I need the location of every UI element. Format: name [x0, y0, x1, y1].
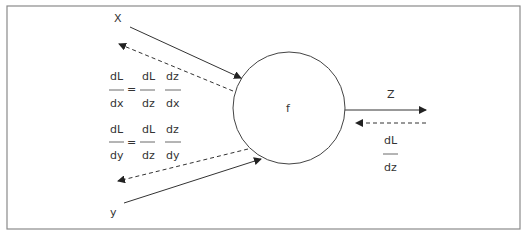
gradient-y-formula: dL dy = dL dz dz dy: [109, 123, 181, 162]
svg-text:dz: dz: [166, 70, 179, 83]
output-z-label: Z: [387, 88, 395, 101]
forward-arrow-y: [124, 159, 261, 203]
svg-text:=: =: [127, 83, 136, 96]
svg-text:=: =: [127, 136, 136, 149]
svg-text:dL: dL: [142, 70, 156, 83]
input-y-label: y: [110, 206, 117, 219]
svg-text:dz: dz: [384, 161, 397, 174]
svg-text:dz: dz: [166, 123, 179, 136]
svg-text:dL: dL: [110, 123, 124, 136]
svg-text:dL: dL: [384, 134, 398, 147]
svg-text:dL: dL: [142, 123, 156, 136]
svg-text:dy: dy: [110, 149, 124, 162]
input-x-label: X: [114, 12, 122, 25]
gradient-x-formula: dL dx = dL dz dz dx: [109, 70, 181, 110]
svg-text:dL: dL: [110, 70, 124, 83]
svg-text:dz: dz: [142, 97, 155, 110]
backward-arrow-y: [118, 149, 248, 181]
svg-text:dx: dx: [110, 97, 124, 110]
svg-text:dx: dx: [166, 97, 180, 110]
backprop-diagram: f X dL dx = dL dz dz dx dL dy = dL dz dz…: [0, 0, 525, 237]
svg-text:dz: dz: [142, 149, 155, 162]
upstream-gradient: dL dz: [383, 134, 398, 174]
svg-text:dy: dy: [166, 149, 180, 162]
